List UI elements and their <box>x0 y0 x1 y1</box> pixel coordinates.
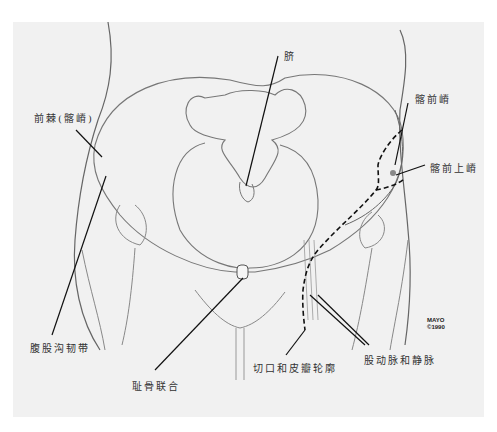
pelvis-illustration <box>0 0 497 432</box>
label-inguinal-ligament: 腹股沟韧带 <box>30 340 90 355</box>
label-incision-flap-outline: 切口和皮瓣轮廓 <box>253 360 337 375</box>
label-femoral-artery-vein: 股动脉和静脉 <box>364 352 436 367</box>
credit-line1: MAYO <box>427 317 445 324</box>
label-asis: 髂前上嵴 <box>430 160 478 175</box>
mayo-credit: MAYO ©1990 <box>427 317 445 331</box>
label-iliac-crest: 髂前嵴 <box>415 91 451 106</box>
leader-umbilicus <box>246 56 278 186</box>
label-anterior-spine-iliac-crest: 前棘(髂嵴) <box>34 110 94 125</box>
credit-line2: ©1990 <box>427 324 445 331</box>
label-umbilicus: 脐 <box>284 48 296 63</box>
label-pubic-symphysis: 耻骨联合 <box>132 378 180 393</box>
